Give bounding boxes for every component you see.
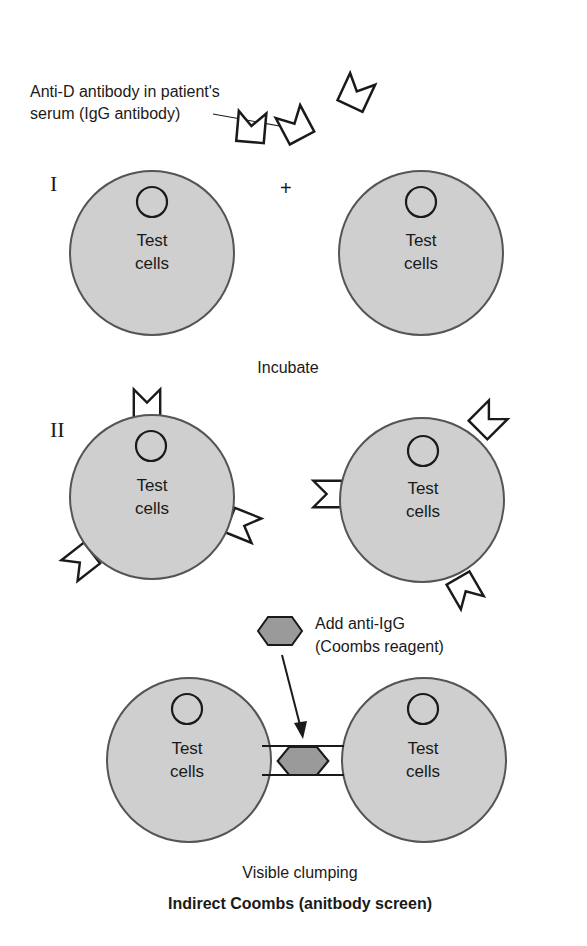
cell-label-line2: cells (406, 502, 440, 521)
sensitized-cell: Test cells (313, 400, 507, 609)
step-2: II Test cells Test cells (50, 389, 508, 609)
cell-label-line1: Test (171, 739, 202, 758)
reagent-label-line2: (Coombs reagent) (315, 638, 444, 655)
step-2-numeral: II (50, 417, 65, 442)
cell-label-line1: Test (136, 231, 167, 250)
plus-sign: + (280, 177, 292, 199)
annotation-line1: Anti-D antibody in patient's (30, 83, 220, 100)
antibody-bridge (262, 746, 344, 775)
figure-title: Indirect Coombs (anitbody screen) (168, 895, 432, 912)
clumping-caption: Visible clumping (242, 864, 357, 881)
step-1: I + Test cells Test cells Incubate (50, 171, 503, 376)
cell-label-line1: Test (407, 739, 438, 758)
coombs-diagram: Anti-D antibody in patient's serum (IgG … (0, 0, 587, 946)
bound-antibody-icon (134, 389, 160, 418)
bound-antibody-icon (313, 481, 342, 507)
arrow-icon (282, 655, 307, 739)
test-cell: Test cells (339, 171, 503, 335)
step-1-numeral: I (50, 171, 57, 196)
cell-label-line2: cells (135, 499, 169, 518)
coombs-reagent-bound-icon (278, 747, 329, 775)
cell-label-line1: Test (136, 476, 167, 495)
test-cell: Test cells (107, 678, 271, 842)
cell-label-line2: cells (404, 254, 438, 273)
bound-antibody-icon (469, 400, 508, 439)
cell-label-line1: Test (407, 479, 438, 498)
sensitized-cell: Test cells (61, 389, 261, 581)
antibody-icon (236, 111, 266, 143)
cell-label-line2: cells (135, 254, 169, 273)
cell-label-line1: Test (405, 231, 436, 250)
annotation-line2: serum (IgG antibody) (30, 105, 180, 122)
antibody-icon (337, 73, 375, 112)
test-cell: Test cells (70, 171, 234, 335)
cell-label-line2: cells (170, 762, 204, 781)
reagent-label-line1: Add anti-IgG (315, 615, 405, 632)
cell-label-line2: cells (406, 762, 440, 781)
test-cell: Test cells (342, 678, 506, 842)
coombs-reagent-icon (258, 617, 302, 645)
antibody-icon (276, 105, 314, 144)
incubate-caption: Incubate (257, 359, 318, 376)
free-antibodies (236, 73, 375, 144)
step-3: Add anti-IgG (Coombs reagent) Test cells… (107, 615, 506, 881)
